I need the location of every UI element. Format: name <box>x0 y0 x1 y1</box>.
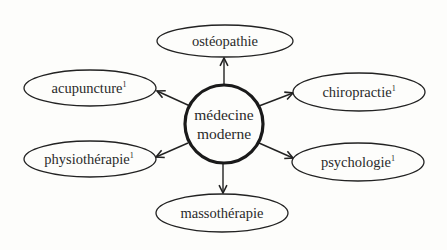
label-massotherapie: massothérapie <box>181 205 264 221</box>
label-osteopathie: ostéopathie <box>192 33 258 49</box>
footnote-marker: 1 <box>130 151 134 160</box>
label-chiropractie: chiropractie1 <box>322 84 395 100</box>
arrow-to-acupuncture <box>157 91 190 106</box>
center-label-line1: médecine <box>194 106 254 123</box>
footnote-marker: 1 <box>392 84 396 93</box>
label-psychologie: psychologie1 <box>321 154 395 170</box>
label-physiotherapie: physiothérapie1 <box>44 151 133 167</box>
footnote-marker: 1 <box>391 154 395 163</box>
diagram-canvas: ostéopathie acupuncture1 chiropractie1 p… <box>0 0 447 250</box>
arrow-to-chiropractie <box>259 93 293 106</box>
arrow-to-physiotherapie <box>156 143 188 157</box>
label-acupuncture: acupuncture1 <box>52 80 127 96</box>
footnote-marker: 1 <box>122 80 126 89</box>
center-node <box>185 85 263 163</box>
arrow-to-psychologie <box>259 143 293 158</box>
center-label-line2: moderne <box>197 125 251 142</box>
